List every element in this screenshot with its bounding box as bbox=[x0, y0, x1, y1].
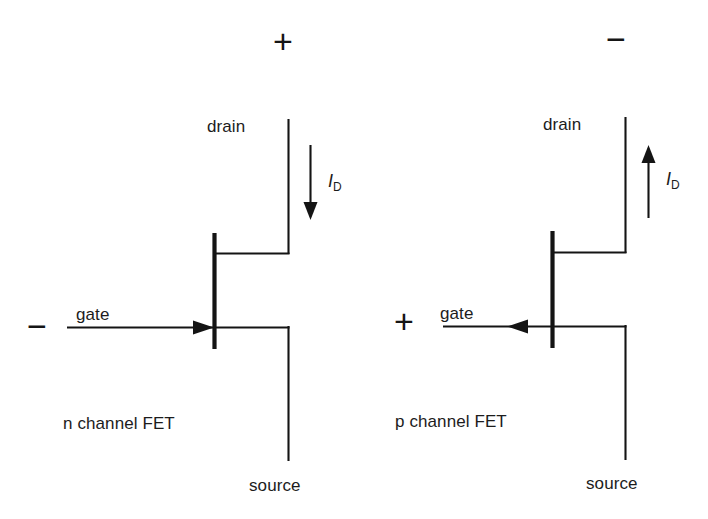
gate-label-left: gate bbox=[76, 306, 110, 323]
gate-arrowhead-left bbox=[193, 321, 214, 335]
caption-left: n channel FET bbox=[63, 415, 175, 432]
figure-canvas: + drain ID − gate n channel FET source −… bbox=[0, 0, 708, 519]
source-label-right: source bbox=[586, 475, 638, 492]
current-arrowhead-right bbox=[642, 145, 656, 163]
caption-right: p channel FET bbox=[395, 413, 507, 430]
current-subscript-right: D bbox=[671, 178, 680, 192]
gate-sign-left: − bbox=[27, 309, 47, 343]
drain-label-left: drain bbox=[207, 118, 245, 135]
gate-sign-right: + bbox=[394, 304, 414, 338]
p-channel-fet-symbol bbox=[443, 117, 656, 460]
supply-sign-right: − bbox=[606, 22, 626, 56]
current-subscript-left: D bbox=[333, 180, 342, 194]
gate-arrowhead-right bbox=[507, 320, 528, 334]
current-label-right: ID bbox=[666, 170, 680, 191]
current-arrowhead-left bbox=[304, 202, 318, 220]
drain-label-right: drain bbox=[543, 116, 581, 133]
n-channel-fet-symbol bbox=[67, 119, 318, 461]
gate-label-right: gate bbox=[440, 305, 474, 322]
current-label-left: ID bbox=[328, 172, 342, 193]
supply-sign-left: + bbox=[273, 24, 293, 58]
source-label-left: source bbox=[249, 477, 301, 494]
circuit-artwork bbox=[0, 0, 708, 519]
